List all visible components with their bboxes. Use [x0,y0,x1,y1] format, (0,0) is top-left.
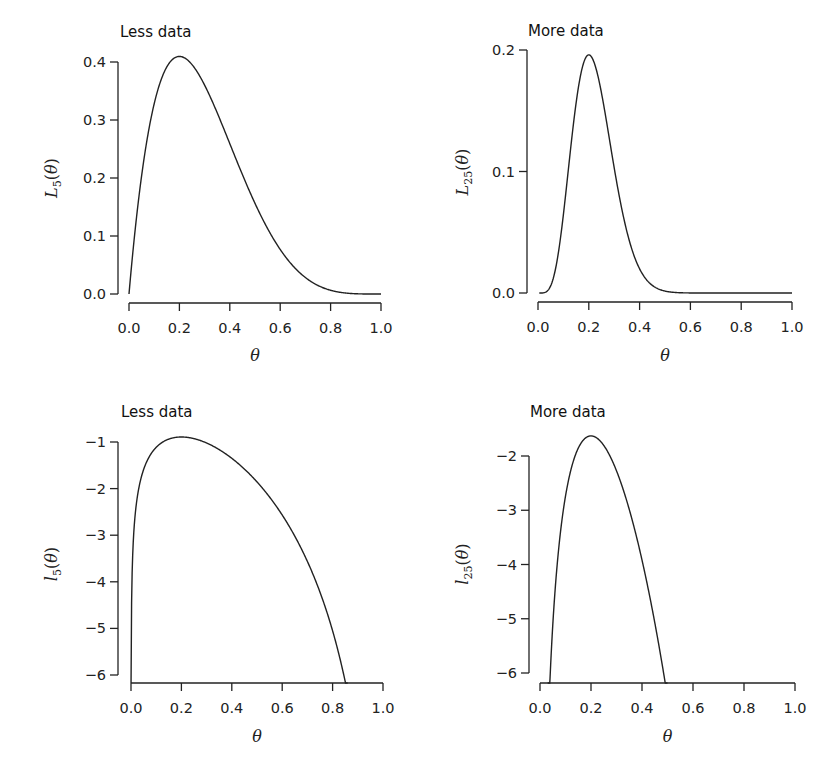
figure: Less data0.00.10.20.30.40.00.20.40.60.81… [0,0,827,768]
x-tick-label: 0.8 [732,700,755,716]
y-tick-label: 0.1 [83,228,106,244]
panel-title: More data [530,403,606,421]
y-axis-label: l25(θ) [453,543,475,584]
y-tick-label: 0.0 [83,286,106,302]
y-axis-label: L5(θ) [42,158,64,199]
x-tick-label: 0.4 [218,320,241,336]
y-tick-label: 0.2 [83,170,106,186]
x-tick-label: 0.2 [579,700,602,716]
x-tick-label: 0.4 [628,319,651,335]
x-axis-label: θ [660,346,670,365]
x-tick-label: 0.4 [220,700,243,716]
y-tick-label: −5 [85,620,106,636]
x-tick-label: 0.6 [271,700,294,716]
y-tick-label: −2 [85,481,106,497]
x-tick-label: 0.8 [319,320,342,336]
panel-title: Less data [121,403,193,421]
likelihood-curve [131,437,348,683]
x-tick-label: 0.0 [119,700,142,716]
y-tick-label: −3 [85,527,106,543]
likelihood-curve [539,55,792,293]
y-tick-label: −6 [496,665,517,681]
x-tick-label: 1.0 [369,320,392,336]
panel-less-data-likelihood: Less data0.00.10.20.30.40.00.20.40.60.81… [42,23,393,365]
x-tick-label: 1.0 [783,700,806,716]
y-tick-label: −3 [496,502,517,518]
x-tick-label: 0.6 [679,319,702,335]
likelihood-curve [129,56,381,294]
y-tick-label: 0.0 [492,285,515,301]
likelihood-curve [548,436,668,683]
x-tick-label: 0.6 [269,320,292,336]
x-tick-label: 0.2 [577,319,600,335]
y-tick-label: −2 [496,448,517,464]
x-tick-label: 0.0 [528,700,551,716]
panel-title: Less data [120,23,192,41]
panel-title: More data [528,22,604,40]
x-tick-label: 0.2 [170,700,193,716]
y-tick-label: −4 [85,574,106,590]
y-tick-label: 0.3 [83,112,106,128]
x-axis-label: θ [663,727,673,746]
x-tick-label: 1.0 [780,319,803,335]
x-tick-label: 0.0 [117,320,140,336]
y-tick-label: −6 [85,667,106,683]
x-tick-label: 0.2 [168,320,191,336]
y-tick-label: −1 [85,434,106,450]
y-axis-label: L25(θ) [453,149,475,197]
x-tick-label: 0.8 [321,700,344,716]
x-axis-label: θ [250,346,260,365]
x-tick-label: 1.0 [371,700,394,716]
y-tick-label: −4 [496,557,517,573]
x-tick-label: 0.6 [681,700,704,716]
y-tick-label: 0.4 [83,54,106,70]
panel-less-data-log-likelihood: Less data−1−2−3−4−5−60.00.20.40.60.81.0θ… [42,403,395,746]
y-tick-label: 0.2 [492,42,515,58]
x-axis-label: θ [252,727,262,746]
y-tick-label: 0.1 [492,164,515,180]
y-axis-label: l5(θ) [42,547,64,581]
x-tick-label: 0.0 [526,319,549,335]
y-tick-label: −5 [496,611,517,627]
panel-more-data-log-likelihood: More data−2−3−4−5−60.00.20.40.60.81.0θl2… [453,403,807,746]
x-tick-label: 0.4 [630,700,653,716]
x-tick-label: 0.8 [730,319,753,335]
panel-more-data-likelihood: More data0.00.10.20.00.20.40.60.81.0θL25… [453,22,804,365]
